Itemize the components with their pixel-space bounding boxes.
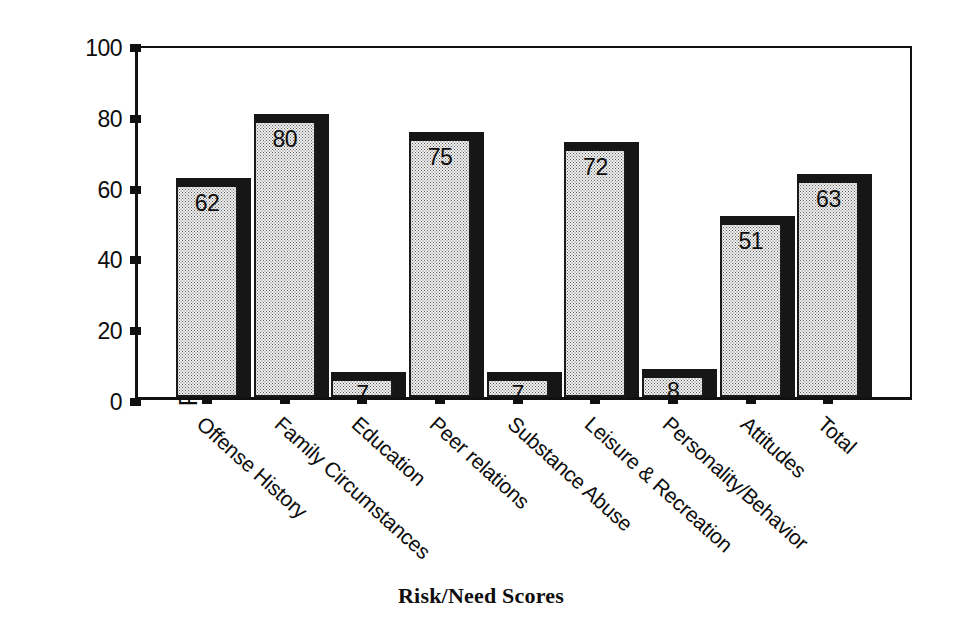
bar[interactable]: 8 <box>642 369 704 397</box>
bar-slot: 80 <box>254 48 316 397</box>
bar-side-face <box>316 114 329 397</box>
bar-top-face <box>409 132 471 141</box>
x-tick-mark <box>590 396 600 404</box>
bar-value-label: 80 <box>254 126 316 153</box>
bar-side-face <box>782 216 795 397</box>
x-tick-mark <box>823 396 833 404</box>
bar-front-face <box>797 181 859 397</box>
y-tick-mark <box>130 44 141 52</box>
bar-slot: 8 <box>642 48 704 397</box>
bar-slot: 7 <box>331 48 393 397</box>
bar-slot: 63 <box>797 48 859 397</box>
bar-top-face <box>254 114 316 123</box>
y-tick-label: 20 <box>97 318 122 345</box>
bar-slot: 62 <box>176 48 238 397</box>
x-axis-label-5: Leisure & Recreation <box>580 412 737 557</box>
y-tick-mark <box>130 256 141 264</box>
bar-slot: 7 <box>487 48 549 397</box>
y-tick-mark <box>130 398 141 406</box>
y-tick-label: 40 <box>97 247 122 274</box>
x-tick-mark <box>280 396 290 404</box>
y-tick-label: 60 <box>97 176 122 203</box>
bar-value-label: 7 <box>331 381 393 408</box>
y-tick-mark <box>130 115 141 123</box>
bar-top-face <box>564 142 626 151</box>
plot-inner: 020406080100 628077577285163 <box>138 48 910 397</box>
bar-value-label: 63 <box>797 186 859 213</box>
bar-value-label: 7 <box>487 381 549 408</box>
bar-top-face <box>642 369 704 378</box>
x-axis-label-6: Personality/Behavior <box>658 412 813 555</box>
x-axis-category-labels: Offense HistoryFamily CircumstancesEduca… <box>0 412 962 592</box>
bar-side-face <box>704 369 717 397</box>
bar[interactable]: 80 <box>254 114 316 397</box>
bar-value-label: 62 <box>176 190 238 217</box>
bar-side-face <box>393 372 406 397</box>
x-axis-title: Risk/Need Scores <box>0 583 962 609</box>
bar-value-label: 75 <box>409 144 471 171</box>
bar[interactable]: 51 <box>720 216 782 397</box>
bar-side-face <box>238 178 251 397</box>
bar-side-face <box>549 372 562 397</box>
x-tick-mark <box>435 396 445 404</box>
x-tick-mark <box>202 396 212 404</box>
bar-front-face <box>564 149 626 397</box>
bar-top-face <box>176 178 238 187</box>
bar-value-label: 51 <box>720 228 782 255</box>
chart-figure: Percentile Score 020406080100 6280775772… <box>0 0 962 622</box>
bar[interactable]: 62 <box>176 178 238 397</box>
bar-value-label: 8 <box>642 378 704 405</box>
y-tick-mark <box>130 327 141 335</box>
bar[interactable]: 72 <box>564 142 626 397</box>
bar[interactable]: 63 <box>797 174 859 397</box>
bar-top-face <box>331 372 393 381</box>
y-tick-label: 100 <box>85 35 122 62</box>
x-axis-label-8: Total <box>813 412 861 459</box>
bar-side-face <box>471 132 484 398</box>
y-tick-label: 80 <box>97 105 122 132</box>
bar-front-face <box>254 121 316 397</box>
bar-front-face <box>409 139 471 398</box>
bar-top-face <box>487 372 549 381</box>
bar[interactable]: 7 <box>487 372 549 397</box>
bar-slot: 72 <box>564 48 626 397</box>
bar-side-face <box>859 174 872 397</box>
y-tick-mark <box>130 186 141 194</box>
bar-side-face <box>626 142 639 397</box>
x-axis-label-7: Attitudes <box>736 412 811 483</box>
bar-slot: 75 <box>409 48 471 397</box>
x-tick-mark <box>746 396 756 404</box>
plot-area: 020406080100 628077577285163 <box>135 46 912 400</box>
bar-value-label: 72 <box>564 154 626 181</box>
bar-top-face <box>797 174 859 183</box>
bar[interactable]: 7 <box>331 372 393 397</box>
bar[interactable]: 75 <box>409 132 471 398</box>
bar-top-face <box>720 216 782 225</box>
bar-slot: 51 <box>720 48 782 397</box>
